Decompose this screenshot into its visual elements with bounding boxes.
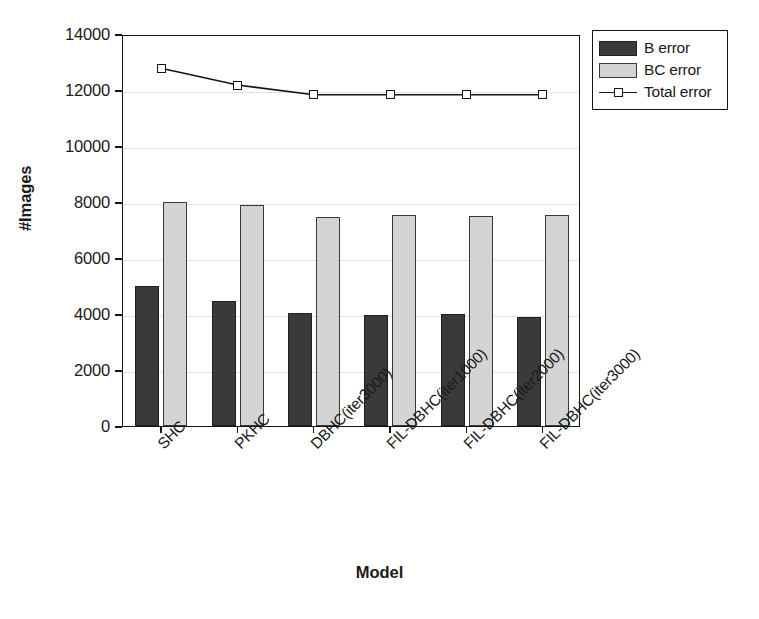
y-tick-mark <box>115 202 122 204</box>
y-tick-mark <box>115 370 122 372</box>
y-tick-label: 2000 <box>74 360 110 380</box>
y-tick-label: 10000 <box>65 136 110 156</box>
bar-bc-error <box>163 202 187 426</box>
legend-label-b-error: B error <box>644 39 690 57</box>
y-tick-label: 14000 <box>65 24 110 44</box>
line-path <box>123 36 581 428</box>
total-error-marker <box>157 64 166 73</box>
gridline <box>123 316 579 317</box>
bar-bc-error <box>392 215 416 426</box>
bar-b-error <box>135 286 159 426</box>
y-axis-title: #Images <box>16 166 35 231</box>
legend-item-bc-error: BC error <box>599 59 720 81</box>
legend-item-total-error: Total error <box>599 81 720 103</box>
chart-figure: 02000400060008000100001200014000 #Images… <box>0 0 759 619</box>
legend-label-total-error: Total error <box>644 83 712 101</box>
bar-bc-error <box>469 216 493 426</box>
legend-label-bc-error: BC error <box>644 61 701 79</box>
bar-b-error <box>288 313 312 426</box>
gridline <box>123 204 579 205</box>
y-axis: 02000400060008000100001200014000 <box>0 0 122 619</box>
legend-item-b-error: B error <box>599 37 720 59</box>
y-tick-mark <box>115 34 122 36</box>
y-tick-label: 6000 <box>74 248 110 268</box>
bar-bc-error <box>545 215 569 426</box>
legend-swatch-bc-error <box>599 63 637 78</box>
gridline <box>123 260 579 261</box>
x-axis-title: Model <box>0 563 759 582</box>
total-error-marker <box>233 81 242 90</box>
y-tick-label: 4000 <box>74 304 110 324</box>
chart-legend: B error BC error Total error <box>592 30 728 110</box>
y-tick-mark <box>115 314 122 316</box>
gridline <box>123 92 579 93</box>
legend-square-marker-icon <box>614 88 623 97</box>
y-tick-label: 8000 <box>74 192 110 212</box>
gridline <box>123 372 579 373</box>
gridline <box>123 148 579 149</box>
y-tick-label: 12000 <box>65 80 110 100</box>
bar-bc-error <box>316 217 340 426</box>
legend-swatch-b-error <box>599 41 637 56</box>
y-tick-mark <box>115 258 122 260</box>
y-tick-mark <box>115 426 122 428</box>
y-tick-label: 0 <box>101 416 110 436</box>
bar-b-error <box>212 301 236 426</box>
total-error-polyline <box>161 68 543 95</box>
legend-swatch-total-error <box>599 85 637 100</box>
total-error-line-series <box>123 36 581 428</box>
y-tick-mark <box>115 146 122 148</box>
bar-bc-error <box>240 205 264 426</box>
y-tick-mark <box>115 90 122 92</box>
plot-area <box>122 35 580 427</box>
